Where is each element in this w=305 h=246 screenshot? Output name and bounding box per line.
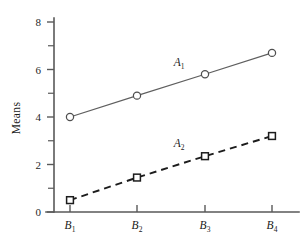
y-tick-label: 6 — [36, 64, 42, 76]
data-point-marker — [269, 133, 276, 140]
data-point-marker — [66, 113, 73, 120]
data-point-marker — [202, 153, 209, 160]
y-tick-label: 0 — [36, 206, 42, 218]
x-tick-label: B2 — [132, 219, 143, 234]
series-line-a1 — [70, 53, 272, 117]
data-point-marker — [268, 49, 275, 56]
y-tick-label: 8 — [36, 16, 42, 28]
y-axis-title-group: Means — [10, 102, 22, 135]
y-axis-ticks: 02468 — [36, 16, 55, 218]
x-axis-ticks: B1B2B3B4 — [65, 205, 278, 234]
x-tick-label: B1 — [65, 219, 76, 234]
y-axis-title: Means — [10, 102, 22, 135]
data-point-marker — [133, 92, 140, 99]
data-point-marker — [201, 71, 208, 78]
y-tick-label: 4 — [36, 111, 42, 123]
x-tick-label: B3 — [200, 219, 211, 234]
series-label-a2: A2 — [173, 137, 185, 152]
y-tick-label: 2 — [36, 159, 42, 171]
series-layer — [66, 49, 275, 203]
data-point-marker — [134, 174, 141, 181]
x-tick-label: B4 — [267, 219, 278, 234]
series-label-a1: A1 — [173, 56, 185, 71]
series-label-layer: A1A2 — [173, 56, 185, 152]
data-point-marker — [67, 197, 74, 204]
chart-container: Means 02468 B1B2B3B4 A1A2 — [0, 0, 305, 246]
series-line-a2 — [70, 136, 272, 200]
axes-group — [46, 18, 299, 212]
means-line-chart: Means 02468 B1B2B3B4 A1A2 — [0, 0, 305, 246]
